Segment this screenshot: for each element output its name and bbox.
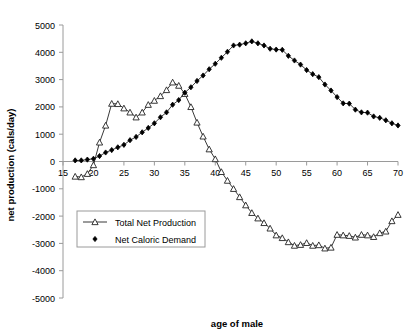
series-marker-open-triangle: [194, 119, 200, 125]
series-marker-filled-diamond: [311, 72, 315, 77]
y-axis-tick-label: -4000: [32, 266, 55, 276]
chart-container: 500040003000200010000-1000-2000-3000-400…: [0, 0, 413, 336]
series-marker-filled-diamond: [378, 115, 382, 120]
series-marker-filled-diamond: [268, 46, 272, 51]
x-axis-tick-label: 25: [119, 168, 129, 178]
series-marker-open-triangle: [395, 212, 401, 218]
y-axis-tick-label: -3000: [32, 239, 55, 249]
x-axis-tick-label: 60: [332, 168, 342, 178]
y-axis-tick-label: 3000: [35, 75, 55, 85]
series-marker-filled-diamond: [262, 43, 266, 48]
series-marker-filled-diamond: [110, 147, 114, 152]
series-marker-open-triangle: [151, 98, 157, 104]
legend-label-1: Net Caloric Demand: [115, 235, 196, 245]
x-axis-tick-label: 30: [149, 168, 159, 178]
series-marker-filled-diamond: [372, 114, 376, 119]
series-marker-open-triangle: [383, 228, 389, 234]
series-marker-filled-diamond: [250, 39, 254, 44]
x-axis-tick-label: 70: [393, 168, 403, 178]
y-axis-tick-label: 2000: [35, 102, 55, 112]
x-axis-tick-label: 50: [271, 168, 281, 178]
series-marker-filled-diamond: [146, 125, 150, 130]
series-marker-open-triangle: [121, 105, 127, 111]
x-axis-tick-label: 15: [58, 168, 68, 178]
series-marker-open-triangle: [224, 178, 230, 184]
series-marker-filled-diamond: [238, 42, 242, 47]
series-marker-filled-diamond: [79, 158, 83, 163]
x-axis-tick-label: 35: [180, 168, 190, 178]
line-chart: 500040003000200010000-1000-2000-3000-400…: [0, 0, 413, 336]
y-axis-tick-label: -2000: [32, 212, 55, 222]
series-marker-open-triangle: [90, 162, 96, 168]
y-axis-tick-label: 1000: [35, 130, 55, 140]
series-marker-open-triangle: [127, 109, 133, 115]
series-marker-open-triangle: [279, 235, 285, 241]
series-marker-filled-diamond: [73, 158, 77, 163]
series-marker-open-triangle: [176, 83, 182, 89]
series-marker-filled-diamond: [274, 47, 278, 52]
series-marker-filled-diamond: [384, 118, 388, 123]
series-marker-open-triangle: [96, 139, 102, 145]
series-marker-open-triangle: [188, 104, 194, 110]
series-marker-open-triangle: [200, 133, 206, 139]
legend-label-0: Total Net Production: [115, 218, 196, 228]
series-marker-filled-diamond: [140, 130, 144, 135]
x-axis-tick-label: 55: [302, 168, 312, 178]
x-axis-tick-label: 65: [363, 168, 373, 178]
series-marker-open-triangle: [145, 102, 151, 108]
y-axis-title: net production (cals/day): [5, 109, 16, 222]
series-marker-filled-diamond: [244, 41, 248, 46]
y-axis-tick-label: 5000: [35, 21, 55, 31]
series-marker-filled-diamond: [292, 58, 296, 63]
series-marker-filled-diamond: [256, 41, 260, 46]
series-marker-open-triangle: [103, 122, 109, 128]
x-axis-title: age of male: [211, 318, 263, 329]
y-axis-tick-label: 0: [50, 157, 55, 167]
series-marker-open-triangle: [170, 79, 176, 85]
y-axis-tick-label: 4000: [35, 48, 55, 58]
x-axis-tick-label: 40: [210, 168, 220, 178]
series-marker-open-triangle: [328, 244, 334, 250]
series-marker-open-triangle: [212, 156, 218, 162]
series-marker-filled-diamond: [128, 138, 132, 143]
series-marker-open-triangle: [206, 146, 212, 152]
series-marker-filled-diamond: [390, 121, 394, 126]
series-marker-filled-diamond: [365, 110, 369, 115]
series-marker-filled-diamond: [116, 145, 120, 150]
series-marker-open-triangle: [285, 239, 291, 245]
x-axis-tick-label: 45: [241, 168, 251, 178]
series-marker-open-triangle: [304, 240, 310, 246]
series-marker-filled-diamond: [396, 123, 400, 128]
series-marker-filled-diamond: [104, 150, 108, 155]
series-marker-filled-diamond: [134, 134, 138, 139]
series-marker-filled-diamond: [359, 110, 363, 115]
series-marker-filled-diamond: [97, 153, 101, 158]
y-axis-tick-label: -5000: [32, 294, 55, 304]
y-axis-tick-label: -1000: [32, 184, 55, 194]
series-marker-open-triangle: [261, 220, 267, 226]
series-marker-filled-diamond: [122, 142, 126, 147]
